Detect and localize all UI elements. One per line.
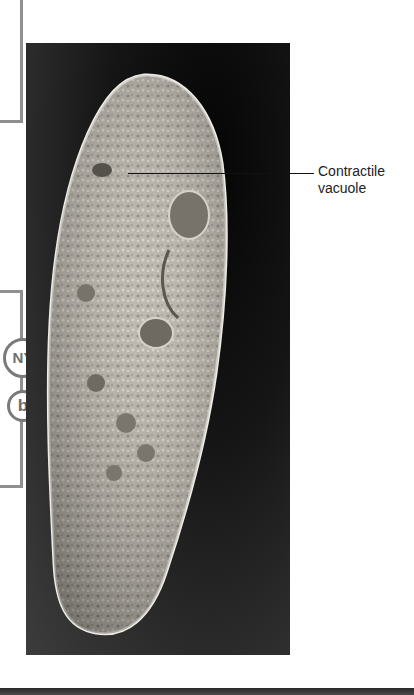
callout-label-line-1: Contractile (318, 163, 385, 180)
callout-leader-line (128, 173, 314, 174)
margin-frame-top (0, 0, 23, 123)
margin-frame-middle (0, 290, 23, 488)
page-bottom-rule (0, 688, 414, 695)
paramecium-micrograph (26, 43, 290, 655)
contractile-vacuole-label: Contractile vacuole (318, 163, 385, 197)
callout-label-line-2: vacuole (318, 180, 385, 197)
paramecium-illustration (26, 43, 290, 655)
